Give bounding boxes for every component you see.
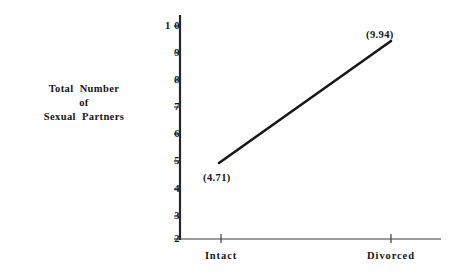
data-line-series-1 bbox=[219, 41, 391, 163]
chart-figure: Total Number of Sexual Partners 1 0 9 8 … bbox=[0, 0, 456, 274]
plot-area bbox=[0, 0, 456, 274]
